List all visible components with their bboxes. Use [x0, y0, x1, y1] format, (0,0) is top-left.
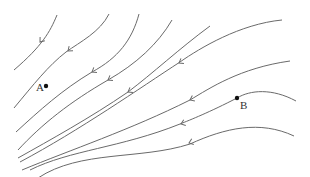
streamline-diagram: AB [0, 0, 310, 177]
streamline-1 [14, 15, 57, 70]
point-b-label: B [240, 99, 247, 111]
streamline-8 [30, 92, 296, 170]
point-a-label: A [36, 81, 44, 93]
streamlines-group [14, 14, 296, 177]
streamline-5 [18, 26, 210, 158]
streamline-6 [20, 20, 282, 162]
streamline-2 [14, 14, 109, 108]
streamline-3 [16, 14, 139, 132]
point-a-dot [44, 84, 48, 88]
point-b-dot [235, 96, 239, 100]
streamline-9 [38, 127, 294, 177]
arrowheads-group [38, 37, 195, 146]
